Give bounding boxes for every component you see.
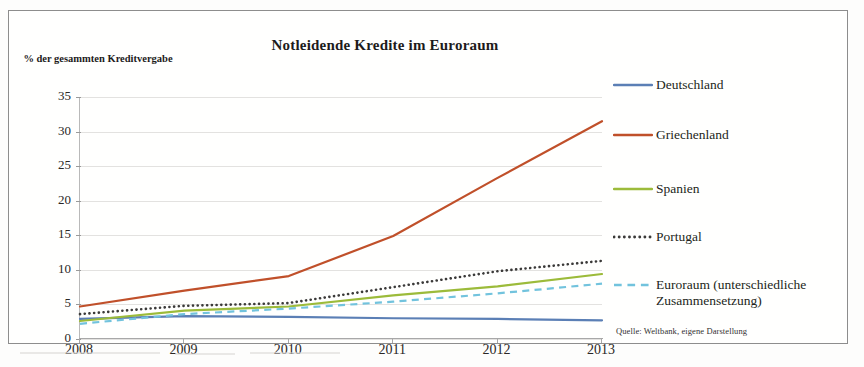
chart-frame: Notleidende Kredite im Euroraum % der ge… (8, 10, 848, 344)
chart-figure: Notleidende Kredite im Euroraum % der ge… (0, 0, 864, 367)
scan-artifact (20, 352, 160, 354)
legend-swatch-icon (613, 280, 653, 294)
legend-swatch-icon (613, 80, 653, 94)
legend-item-euroraum[interactable]: Euroraum (unterschiedliche Zusammensetzu… (613, 277, 806, 309)
x-tick-label: 2012 (462, 342, 532, 358)
legend-swatch-icon (613, 232, 653, 246)
chart-title: Notleidende Kredite im Euroraum (209, 37, 561, 54)
gridline (80, 339, 602, 340)
y-tick-label: 25 (27, 157, 71, 173)
series-line-spanien (80, 274, 602, 321)
legend-swatch-icon (613, 130, 653, 144)
scan-artifact (175, 353, 235, 355)
x-tick-label: 2011 (357, 342, 427, 358)
y-tick-label: 10 (27, 261, 71, 277)
scan-artifact (250, 352, 340, 354)
legend-swatch-icon (613, 184, 653, 198)
legend-item-portugal[interactable]: Portugal (613, 229, 702, 246)
y-axis-caption: % der gesammten Kreditvergabe (23, 52, 173, 65)
y-tick-label: 15 (27, 226, 71, 242)
x-tick-label: 2008 (44, 342, 114, 358)
legend-item-griechenland[interactable]: Griechenland (613, 127, 729, 144)
x-tick-label: 2013 (566, 342, 636, 358)
legend-item-label: Portugal (653, 229, 702, 245)
x-axis-line (79, 338, 603, 339)
legend-item-label: Griechenland (653, 127, 729, 143)
series-lines (80, 97, 602, 339)
x-tick-label: 2009 (148, 342, 218, 358)
plot-area (79, 97, 601, 339)
legend-item-label: Spanien (653, 181, 700, 197)
y-tick-label: 35 (27, 88, 71, 104)
x-tick-label: 2010 (253, 342, 323, 358)
y-tick-label: 5 (27, 295, 71, 311)
source-note: Quelle: Weltbank, eigene Darstellung (616, 326, 747, 336)
legend-item-deutschland[interactable]: Deutschland (613, 77, 723, 94)
y-tick-label: 20 (27, 192, 71, 208)
legend-item-spanien[interactable]: Spanien (613, 181, 700, 198)
series-line-griechenland (80, 121, 602, 306)
y-tick-label: 30 (27, 123, 71, 139)
legend-item-label: Deutschland (653, 77, 723, 93)
legend-item-label: Euroraum (unterschiedliche Zusammensetzu… (653, 277, 806, 309)
